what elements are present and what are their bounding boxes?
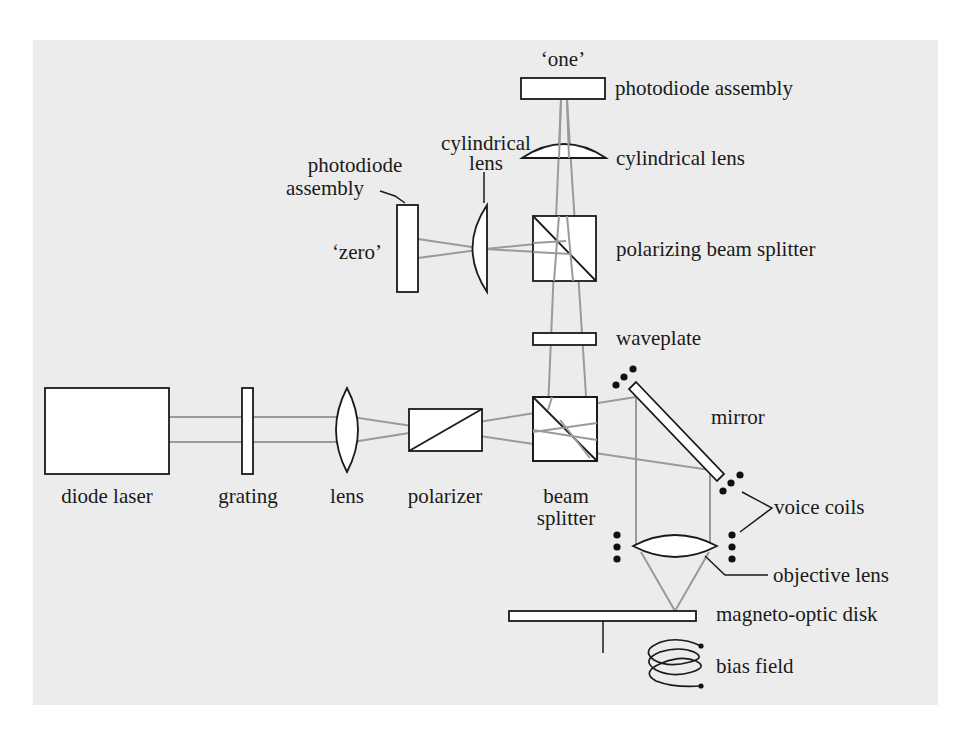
beam-splitter <box>533 397 597 461</box>
waveplate-label: waveplate <box>616 326 701 350</box>
diode-laser-label: diode laser <box>61 484 153 508</box>
optical-head-diagram: diode laser grating lens polarizer beam … <box>0 0 973 738</box>
diode-laser <box>45 388 169 474</box>
photodiode-assembly-left-label-line2: assembly <box>286 176 365 200</box>
objective-lens-label: objective lens <box>773 563 889 587</box>
mirror-label: mirror <box>711 405 765 429</box>
bias-field-coil-icon <box>648 640 703 689</box>
cylindrical-lens-top-label: cylindrical lens <box>616 146 745 170</box>
beam-splitter-label-line2: splitter <box>537 506 595 530</box>
photodiode-assembly-top-label: photodiode assembly <box>615 76 793 100</box>
grating <box>242 388 253 474</box>
cylindrical-lens-left-label-line2: lens <box>469 151 503 175</box>
zero-label: ‘zero’ <box>332 240 382 264</box>
photodiode-assembly-one <box>521 78 605 99</box>
objective-lens-leader <box>705 556 768 575</box>
photodiode-assembly-left-label-line1: photodiode <box>308 153 403 177</box>
grating-label: grating <box>218 484 278 508</box>
cylindrical-lens-top <box>522 144 606 158</box>
waveplate <box>533 333 596 345</box>
beam-splitter-label-line1: beam <box>543 484 588 508</box>
photodiode-left-leader <box>380 191 405 203</box>
objective-lens <box>633 535 717 557</box>
polarizing-beam-splitter-label: polarizing beam splitter <box>616 237 815 261</box>
voice-coils <box>612 365 743 562</box>
lens <box>336 388 358 472</box>
magneto-optic-disk <box>509 611 696 621</box>
one-label: ‘one’ <box>541 47 585 71</box>
polarizing-beam-splitter <box>533 216 596 281</box>
magneto-optic-disk-label: magneto-optic disk <box>716 602 878 626</box>
mirror <box>629 382 724 481</box>
polarizer-label: polarizer <box>408 484 483 508</box>
bias-field-label: bias field <box>716 654 794 678</box>
voice-coils-label: voice coils <box>774 495 864 519</box>
cylindrical-lens-left <box>473 205 488 292</box>
photodiode-assembly-zero <box>397 205 418 292</box>
polarizer <box>409 409 482 451</box>
voice-coils-leader <box>740 492 772 532</box>
laser-beams <box>169 100 710 611</box>
lens-label: lens <box>330 484 364 508</box>
